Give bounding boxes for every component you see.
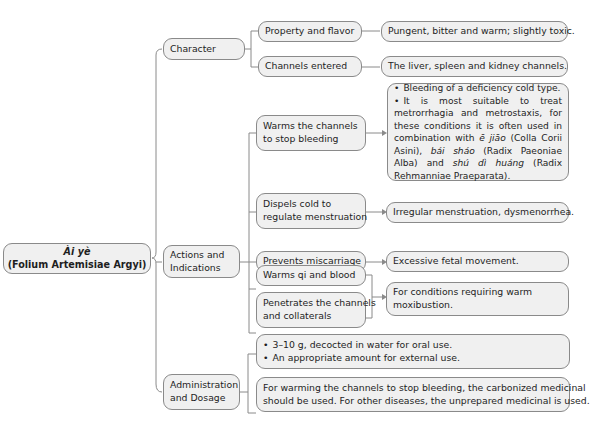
dispels-cold-detail: Irregular menstruation, dysmenorrhea. <box>386 202 569 223</box>
administration-dosage-node: Administration and Dosage <box>163 374 240 410</box>
property-flavor-label: Property and flavor <box>265 25 355 38</box>
channels-entered-label: Channels entered <box>265 60 355 73</box>
dispels-cold-text: Irregular menstruation, dysmenorrhea. <box>393 206 562 219</box>
character-label: Character <box>170 43 238 56</box>
dispels-cold-line2: regulate menstruation <box>263 211 359 224</box>
warms-channels-node: Warms the channels to stop bleeding <box>256 115 366 151</box>
root-title: Ài yè <box>64 246 91 259</box>
external-dosage-text: An appropriate amount for external use. <box>263 352 563 365</box>
actions-indications-node: Actions and Indications <box>163 245 240 278</box>
penetrates-channels-node: Penetrates the channels and collaterals <box>256 292 366 328</box>
channels-entered-detail: The liver, spleen and kidney channels. <box>381 56 568 77</box>
root-subtitle: (Folium Artemisiae Argyi) <box>8 259 147 272</box>
penetrates-line2: and collaterals <box>263 310 359 323</box>
herb-bai-shao: bái sháo <box>431 146 475 156</box>
prevents-miscarriage-text: Excessive fetal movement. <box>393 255 562 268</box>
warm-moxibustion-detail: For conditions requiring warm moxibustio… <box>386 282 569 316</box>
herb-e-jiao: ē jiāo <box>479 133 506 143</box>
herb-shu-di-huang: shú dì huáng <box>453 158 524 168</box>
warms-qi-blood-node: Warms qi and blood <box>256 265 366 286</box>
character-node: Character <box>163 38 245 60</box>
channels-entered-node: Channels entered <box>258 56 362 77</box>
preparation-line1: For warming the channels to stop bleedin… <box>263 382 563 395</box>
warms-channels-detail: Bleeding of a deficiency cold type. It i… <box>387 83 569 181</box>
preparation-detail: For warming the channels to stop bleedin… <box>256 377 570 412</box>
administration-line1: Administration <box>170 379 233 392</box>
preparation-line2: should be used. For other diseases, the … <box>263 395 563 408</box>
oral-dosage-text: 3–10 g, decocted in water for oral use. <box>263 339 563 352</box>
combination-text: It is most suitable to treat metrorrhagi… <box>394 95 562 183</box>
property-flavor-text: Pungent, bitter and warm; slightly toxic… <box>388 25 561 38</box>
channels-entered-text: The liver, spleen and kidney channels. <box>388 60 561 73</box>
warms-channels-line1: Warms the channels <box>263 120 359 133</box>
dispels-cold-line1: Dispels cold to <box>263 198 359 211</box>
dosage-detail: 3–10 g, decocted in water for oral use. … <box>256 334 570 369</box>
bleeding-type-text: Bleeding of a deficiency cold type. <box>394 82 562 95</box>
administration-line2: and Dosage <box>170 392 233 405</box>
penetrates-line1: Penetrates the channels <box>263 297 359 310</box>
warms-channels-line2: to stop bleeding <box>263 133 359 146</box>
moxibustion-line2: moxibustion. <box>393 299 562 312</box>
prevents-miscarriage-detail: Excessive fetal movement. <box>386 251 569 272</box>
moxibustion-line1: For conditions requiring warm <box>393 286 562 299</box>
actions-label-line2: Indications <box>170 262 233 275</box>
root-node: Ài yè (Folium Artemisiae Argyi) <box>3 243 151 274</box>
property-flavor-node: Property and flavor <box>258 21 362 42</box>
actions-label-line1: Actions and <box>170 249 233 262</box>
warms-qi-blood-label: Warms qi and blood <box>263 269 359 282</box>
dispels-cold-node: Dispels cold to regulate menstruation <box>256 193 366 229</box>
property-flavor-detail: Pungent, bitter and warm; slightly toxic… <box>381 21 568 42</box>
